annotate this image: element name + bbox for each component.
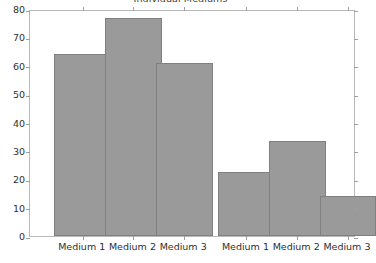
y-axis-tick: [354, 238, 358, 239]
y-axis-tick-label: 20: [0, 175, 25, 185]
y-axis-tick: [26, 124, 30, 125]
y-axis-tick: [26, 11, 30, 12]
x-axis-tick: [348, 236, 349, 240]
y-axis-tick-label: 80: [0, 5, 25, 15]
x-axis-tick: [297, 236, 298, 240]
bar: [320, 196, 376, 236]
x-axis-tick-label: Medium 1: [58, 242, 105, 252]
y-axis-tick-label: 50: [0, 90, 25, 100]
bar: [54, 54, 111, 236]
x-axis-tick: [297, 7, 298, 11]
x-axis-tick-label: Medium 3: [160, 242, 207, 252]
bar: [156, 63, 213, 236]
y-axis-tick-label: 0: [0, 232, 25, 242]
bars-layer: [30, 11, 354, 236]
bar: [105, 18, 162, 236]
x-axis-tick: [348, 7, 349, 11]
x-axis-tick: [184, 7, 185, 11]
y-axis-tick: [26, 181, 30, 182]
y-axis-tick: [354, 67, 358, 68]
y-axis-tick-label: 30: [0, 147, 25, 157]
chart-title: Individual Mediums: [0, 0, 361, 4]
x-axis-tick-label: Medium 1: [222, 242, 269, 252]
x-axis-tick: [83, 7, 84, 11]
x-axis-tick-label: Medium 2: [273, 242, 320, 252]
y-axis-tick: [26, 96, 30, 97]
y-axis-tick: [26, 67, 30, 68]
y-axis-tick: [26, 209, 30, 210]
y-axis-tick-label: 10: [0, 204, 25, 214]
x-axis-tick: [184, 236, 185, 240]
bar: [218, 172, 275, 236]
y-axis-tick: [26, 39, 30, 40]
bar: [269, 141, 326, 236]
x-axis-labels: Medium 1Medium 2Medium 3Medium 1Medium 2…: [29, 242, 355, 258]
x-axis-tick: [133, 236, 134, 240]
y-axis-labels: 01020304050607080: [0, 10, 27, 237]
y-axis-tick: [26, 238, 30, 239]
y-axis-tick: [354, 96, 358, 97]
x-axis-tick: [246, 7, 247, 11]
y-axis-tick: [354, 39, 358, 40]
x-axis-tick-label: Medium 2: [109, 242, 156, 252]
y-axis-tick: [354, 124, 358, 125]
x-axis-tick: [133, 7, 134, 11]
y-axis-tick-label: 70: [0, 33, 25, 43]
y-axis-tick: [26, 152, 30, 153]
y-axis-tick: [354, 181, 358, 182]
y-axis-tick: [354, 152, 358, 153]
y-axis-tick: [354, 209, 358, 210]
y-axis-tick-label: 40: [0, 119, 25, 129]
x-axis-tick: [246, 236, 247, 240]
plot-area: [29, 10, 355, 237]
y-axis-tick-label: 60: [0, 62, 25, 72]
y-axis-tick: [354, 11, 358, 12]
x-axis-tick-label: Medium 3: [323, 242, 370, 252]
x-axis-tick: [83, 236, 84, 240]
